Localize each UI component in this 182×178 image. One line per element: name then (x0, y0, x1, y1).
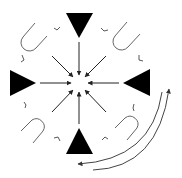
movement-diagram (0, 0, 182, 178)
